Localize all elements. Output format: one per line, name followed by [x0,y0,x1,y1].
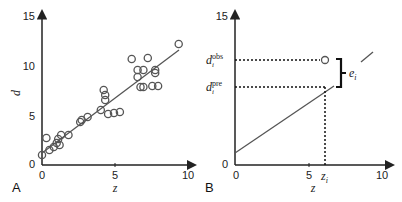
y-axis-label: d [9,89,23,96]
zi-label: zi [320,169,328,185]
y-tick-label-15-b: 15 [216,10,228,22]
x-axis-label-b: z [310,181,316,195]
error-bracket [336,59,346,87]
x-tick-label-10-b: 10 [376,169,388,181]
panel-label-b: B [205,180,214,195]
x-tick-label-5-b: 5 [306,169,312,181]
d-obs-label: diobs [206,52,223,69]
x-tick-label-5: 5 [112,169,118,181]
figure: 15 10 5 0 0 5 10 z d A 15 0 0 5 10 z B [0,0,402,202]
d-pre-label: dipre [206,79,223,96]
y-tick-label-0-b: 0 [222,158,228,170]
y-tick-label-15: 15 [23,10,35,22]
data-point [134,73,141,80]
x-axis-label: z [112,181,118,195]
x-tick-label-10: 10 [182,169,194,181]
data-point [128,55,135,62]
data-point [144,54,151,61]
regression-line-continued [361,52,373,62]
regression-line [235,86,334,153]
fit-line [42,50,179,153]
y-tick-label-5: 5 [29,110,35,122]
observed-point [322,57,329,64]
x-tick-label-0: 0 [39,169,45,181]
data-point [43,134,50,141]
error-label: ei [349,66,357,82]
data-point [175,40,182,47]
y-tick-label-0: 0 [29,158,35,170]
panel-b: 15 0 0 5 10 z B ei diobs dipre zi [205,10,392,195]
panel-label-a: A [12,180,21,195]
data-points [38,40,182,158]
data-point [102,96,109,103]
y-tick-label-10: 10 [23,60,35,72]
data-point [100,86,107,93]
panel-a: 15 10 5 0 0 5 10 z d A [9,10,194,195]
x-tick-label-0-b: 0 [233,169,239,181]
